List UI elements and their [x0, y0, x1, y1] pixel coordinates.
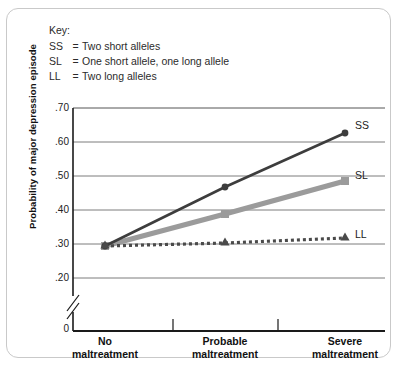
series-label-ll: LL — [355, 228, 367, 240]
y-tick-label-20: .20 — [43, 272, 69, 283]
series-label-sl: SL — [355, 169, 368, 181]
x-tick-label-1-line1: Probable — [185, 335, 265, 348]
y-tick-label-70: .70 — [43, 102, 69, 113]
x-tick-label-2-line1: Severe — [305, 335, 385, 348]
y-tick-label-30: .30 — [43, 238, 69, 249]
x-tick-label-1: Probable maltreatment — [185, 335, 265, 360]
series-ss-marker-1 — [222, 184, 229, 191]
y-tick-label-zero: 0 — [43, 323, 69, 334]
series-label-ss: SS — [355, 119, 369, 131]
chart-canvas — [7, 9, 392, 359]
series-ss-marker-2 — [342, 130, 349, 137]
x-tick-label-0-line1: No — [65, 335, 145, 348]
series-sl-marker-2 — [341, 177, 349, 185]
y-tick-label-60: .60 — [43, 136, 69, 147]
y-tick-label-50: .50 — [43, 170, 69, 181]
x-tick-label-1-line2: maltreatment — [185, 348, 265, 361]
x-tick-label-0: No maltreatment — [65, 335, 145, 360]
plot-area: Probability of major depression episode … — [7, 9, 392, 359]
series-ll-marker-2 — [340, 233, 349, 241]
x-tick-label-0-line2: maltreatment — [65, 348, 145, 361]
axis-break-mark-upper — [67, 295, 79, 311]
y-axis-title: Probability of major depression episode — [27, 29, 38, 244]
y-tick-label-40: .40 — [43, 204, 69, 215]
figure-card: Key: SS=Two short alleles SL=One short a… — [6, 8, 391, 358]
x-tick-label-2-line2: maltreatment — [305, 348, 385, 361]
series-sl-marker-1 — [221, 210, 229, 218]
x-tick-label-2: Severe maltreatment — [305, 335, 385, 360]
